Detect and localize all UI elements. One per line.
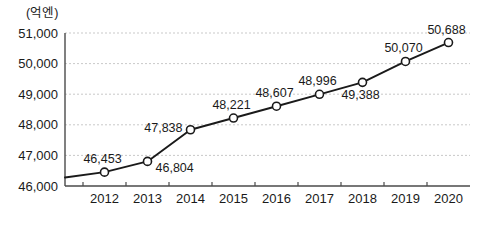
line-chart: 46,00047,00048,00049,00050,00051,000 201… xyxy=(0,0,478,227)
x-axis-tick-labels: 201220132014201520162017201820192020 xyxy=(90,191,463,206)
y-axis-tick-label: 47,000 xyxy=(18,148,58,163)
y-axis-tick-label: 50,000 xyxy=(18,56,58,71)
data-point-marker xyxy=(316,90,324,98)
y-axis-tick-labels: 46,00047,00048,00049,00050,00051,000 xyxy=(18,26,58,194)
x-axis-tick-label: 2013 xyxy=(133,191,162,206)
data-point-label: 48,221 xyxy=(212,98,250,112)
data-point-marker xyxy=(445,39,453,47)
data-point-label: 46,804 xyxy=(156,161,194,175)
x-axis-tick-label: 2014 xyxy=(176,191,205,206)
y-axis-tick-label: 51,000 xyxy=(18,26,58,41)
data-point-label: 48,996 xyxy=(298,74,336,88)
data-point-marker xyxy=(230,114,238,122)
x-axis-tick-label: 2016 xyxy=(262,191,291,206)
data-point-label: 47,838 xyxy=(144,121,182,135)
y-axis-tick-label: 49,000 xyxy=(18,87,58,102)
data-point-marker xyxy=(187,126,195,134)
data-point-marker xyxy=(359,78,367,86)
x-axis-tick-label: 2018 xyxy=(348,191,377,206)
x-axis-tick-label: 2012 xyxy=(90,191,119,206)
data-point-marker xyxy=(273,102,281,110)
data-point-marker xyxy=(402,57,410,65)
data-point-label: 49,388 xyxy=(341,88,379,102)
data-point-label: 48,607 xyxy=(255,86,293,100)
y-axis-unit-label: (억엔) xyxy=(26,6,58,20)
x-axis-tick-label: 2015 xyxy=(219,191,248,206)
x-axis-tick-label: 2020 xyxy=(434,191,463,206)
data-point-marker xyxy=(144,157,152,165)
x-axis-tick-label: 2019 xyxy=(391,191,420,206)
x-axis-tick-label: 2017 xyxy=(305,191,334,206)
chart-canvas: 46,00047,00048,00049,00050,00051,000 201… xyxy=(0,0,478,227)
data-point-marker xyxy=(101,168,109,176)
data-point-label: 46,453 xyxy=(83,152,121,166)
y-axis-tick-label: 46,000 xyxy=(18,179,58,194)
data-point-label: 50,688 xyxy=(427,23,465,37)
series-line xyxy=(65,43,449,178)
y-axis-tick-label: 48,000 xyxy=(18,117,58,132)
data-point-label: 50,070 xyxy=(384,41,422,55)
data-point-labels: 46,45346,80447,83848,22148,60748,99649,3… xyxy=(83,23,465,176)
